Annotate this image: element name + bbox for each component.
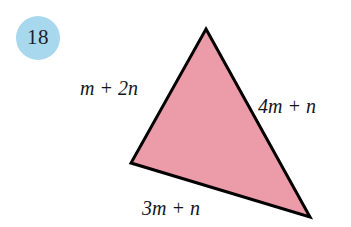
exercise-number-label: 18 [27, 27, 49, 49]
side-label-bottom: 3m + n [142, 198, 200, 218]
figure-canvas: 18 m + 2n 4m + n 3m + n [0, 0, 351, 227]
side-label-left: m + 2n [80, 78, 138, 98]
triangle-shape [131, 29, 310, 217]
exercise-number-badge: 18 [16, 16, 60, 60]
side-label-right: 4m + n [258, 96, 316, 116]
